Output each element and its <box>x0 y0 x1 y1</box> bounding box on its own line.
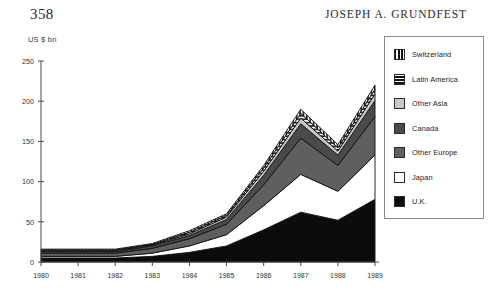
chart-series-group <box>41 85 375 262</box>
y-tick-label-250: 250 <box>22 57 34 66</box>
legend-item-switzerland[interactable]: Switzerland <box>394 49 451 60</box>
legend-swatch-icon <box>394 172 405 183</box>
x-tick-label-1981: 1981 <box>70 272 86 279</box>
x-tick-label-1986: 1986 <box>256 272 272 279</box>
y-tick-label-0: 0 <box>30 258 34 267</box>
running-head-author: JOSEPH A. GRUNDFEST <box>325 8 467 20</box>
legend-swatch-icon <box>394 98 405 109</box>
y-tick-label-200: 200 <box>22 97 34 106</box>
page-number: 358 <box>30 6 54 23</box>
legend-label: Japan <box>412 173 433 182</box>
legend-item-japan[interactable]: Japan <box>394 172 433 183</box>
x-tick-label-1989: 1989 <box>367 272 383 279</box>
legend-swatch-icon <box>394 196 405 207</box>
x-tick-label-1987: 1987 <box>293 272 309 279</box>
legend-label: Canada <box>412 124 439 133</box>
legend-label: U.K. <box>412 197 427 206</box>
page: 358 JOSEPH A. GRUNDFEST US $ bn 05010015… <box>0 0 494 299</box>
legend-swatch-icon <box>394 49 405 60</box>
legend-item-other-asia[interactable]: Other Asia <box>394 98 448 109</box>
legend-label: Latin America <box>412 75 458 84</box>
legend-swatch-icon <box>394 147 405 158</box>
y-tick-label-50: 50 <box>26 218 34 227</box>
chart-legend: SwitzerlandLatin AmericaOther AsiaCanada… <box>384 36 484 219</box>
legend-swatch-icon <box>394 74 405 85</box>
x-tick-label-1983: 1983 <box>145 272 161 279</box>
y-tick-label-100: 100 <box>22 177 34 186</box>
x-tick-label-1988: 1988 <box>330 272 346 279</box>
legend-swatch-icon <box>394 123 405 134</box>
y-tick-label-150: 150 <box>22 137 34 146</box>
legend-item-latin-america[interactable]: Latin America <box>394 74 458 85</box>
x-tick-label-1984: 1984 <box>182 272 198 279</box>
x-tick-label-1985: 1985 <box>219 272 235 279</box>
running-head: 358 JOSEPH A. GRUNDFEST <box>0 6 494 28</box>
x-tick-label-1982: 1982 <box>107 272 123 279</box>
legend-item-canada[interactable]: Canada <box>394 123 439 134</box>
legend-item-u-k[interactable]: U.K. <box>394 196 427 207</box>
legend-label: Switzerland <box>412 50 451 59</box>
legend-item-other-europe[interactable]: Other Europe <box>394 147 458 158</box>
x-tick-label-1980: 1980 <box>33 272 49 279</box>
legend-label: Other Europe <box>412 148 458 157</box>
legend-label: Other Asia <box>412 99 448 108</box>
